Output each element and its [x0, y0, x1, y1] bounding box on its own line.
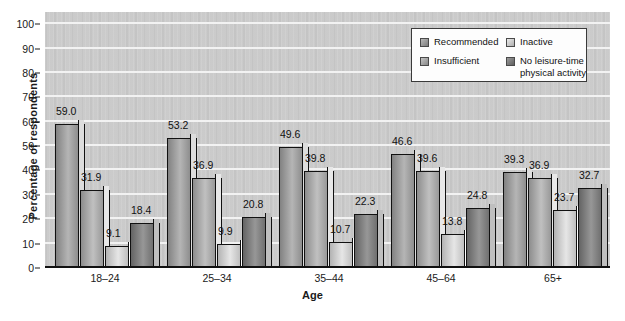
gridline — [45, 22, 610, 24]
bar-front-face — [392, 155, 414, 267]
bar-top-face — [103, 186, 109, 192]
bar-front-face — [554, 211, 576, 267]
bar-front-face — [131, 224, 153, 267]
bar-front-face — [417, 172, 439, 267]
x-axis-tick-label: 35–44 — [314, 272, 343, 284]
bar-front-face — [193, 179, 215, 267]
bar — [578, 188, 608, 268]
bar-value-label: 53.2 — [168, 119, 188, 131]
bar-value-label: 39.6 — [417, 152, 437, 164]
y-axis-tick-mark — [35, 243, 40, 244]
bar-top-face — [489, 204, 495, 210]
x-axis-title: Age — [0, 289, 625, 301]
legend-item: Insufficient — [420, 55, 479, 67]
y-axis-tick-label: 10 — [22, 238, 34, 250]
y-axis-tick-label: 60 — [22, 116, 34, 128]
bar-value-label: 49.6 — [280, 128, 300, 140]
y-axis-tick-label: 70 — [22, 91, 34, 103]
legend-item-label: No leisure-time physical activity — [520, 55, 586, 78]
y-axis-tick-mark — [35, 268, 40, 269]
bar-side-face — [153, 224, 159, 267]
legend-item: No leisure-time physical activity — [506, 55, 586, 78]
y-axis-tick-label: 0 — [28, 262, 34, 274]
legend-item: Recommended — [420, 36, 498, 48]
bar-top-face — [215, 174, 221, 180]
y-axis-tick-label: 100 — [16, 18, 34, 30]
legend-swatch-icon — [420, 57, 429, 66]
y-axis-tick-mark — [35, 170, 40, 171]
bar-side-face — [265, 218, 271, 267]
bar-value-label: 9.9 — [218, 225, 233, 237]
bar-value-label: 39.8 — [305, 152, 325, 164]
bar-value-label: 59.0 — [56, 105, 76, 117]
chart-legend: RecommendedInactiveInsufficientNo leisur… — [411, 28, 587, 82]
y-axis-tick-mark — [35, 97, 40, 98]
bar-value-label: 9.1 — [106, 227, 121, 239]
bar-value-label: 10.7 — [330, 223, 350, 235]
bar-value-label: 36.9 — [529, 159, 549, 171]
y-axis-tick-label: 30 — [22, 189, 34, 201]
bar-front-face — [529, 179, 551, 267]
bar-value-label: 36.9 — [193, 159, 213, 171]
y-axis-tick-labels: 0102030405060708090100 — [0, 12, 40, 268]
legend-swatch-icon — [506, 38, 515, 47]
x-axis-line — [45, 266, 610, 268]
bar-value-label: 20.8 — [243, 198, 263, 210]
y-axis-tick-label: 40 — [22, 164, 34, 176]
legend-swatch-icon — [506, 57, 515, 66]
y-axis-tick-mark — [35, 194, 40, 195]
bar-front-face — [442, 235, 464, 267]
y-axis-tick-mark — [35, 146, 40, 147]
bar — [130, 223, 160, 268]
bar-top-face — [327, 167, 333, 173]
bar-front-face — [579, 189, 601, 267]
bar-value-label: 31.9 — [81, 171, 101, 183]
bar — [242, 217, 272, 268]
gridline — [45, 144, 610, 146]
bar-top-face — [439, 167, 445, 173]
bar-value-label: 18.4 — [131, 204, 151, 216]
bar-top-face — [377, 210, 383, 216]
y-axis-tick-mark — [35, 48, 40, 49]
bar-top-face — [265, 213, 271, 219]
bar-top-face — [551, 174, 557, 180]
legend-item-label: Inactive — [520, 36, 553, 48]
bar-top-face — [78, 120, 84, 126]
bar-value-label: 39.3 — [504, 153, 524, 165]
bar-value-label: 13.8 — [442, 215, 462, 227]
bar-front-face — [168, 139, 190, 267]
bar-front-face — [106, 247, 128, 267]
bar-front-face — [243, 218, 265, 267]
y-axis-tick-mark — [35, 24, 40, 25]
bar-side-face — [489, 209, 495, 267]
chart-figure: Percentage of respondents 01020304050607… — [0, 0, 625, 321]
y-axis-tick-mark — [35, 121, 40, 122]
bar-front-face — [504, 173, 526, 267]
gridline — [45, 120, 610, 122]
bar-front-face — [218, 245, 240, 267]
x-axis-tick-label: 45–64 — [426, 272, 455, 284]
y-axis-tick-label: 80 — [22, 67, 34, 79]
bar-side-face — [377, 215, 383, 267]
y-axis-tick-mark — [35, 219, 40, 220]
bar-value-label: 24.8 — [467, 189, 487, 201]
y-axis-tick-mark — [35, 72, 40, 73]
bar-front-face — [56, 125, 78, 267]
y-axis-tick-label: 90 — [22, 43, 34, 55]
bar-value-label: 32.7 — [579, 169, 599, 181]
legend-item-label: Recommended — [434, 36, 498, 48]
bar-top-face — [153, 219, 159, 225]
bar — [354, 214, 384, 268]
bar-top-face — [601, 184, 607, 190]
bar-top-face — [302, 143, 308, 149]
y-axis-tick-label: 20 — [22, 213, 34, 225]
legend-item: Inactive — [506, 36, 553, 48]
bar — [466, 208, 496, 268]
x-axis-tick-label: 65+ — [544, 272, 562, 284]
bar-side-face — [601, 189, 607, 267]
bar-front-face — [305, 172, 327, 267]
bar-front-face — [355, 215, 377, 267]
bar-front-face — [330, 243, 352, 267]
bar-value-label: 46.6 — [392, 135, 412, 147]
gridline — [45, 95, 610, 97]
